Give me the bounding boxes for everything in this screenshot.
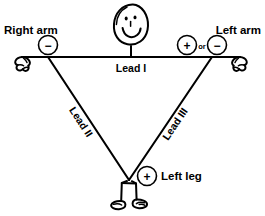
electrode-left-arm-negative[interactable]: − <box>208 36 227 55</box>
lead-lines-group <box>22 57 240 180</box>
diagram-canvas: − + or − + Right arm Left arm Lead I Lea… <box>0 0 265 216</box>
einthoven-triangle-diagram: − + or − + Right arm Left arm Lead I Lea… <box>0 0 265 216</box>
left-arm-label: Left arm <box>216 24 261 36</box>
left-leg-polarity-symbol: + <box>143 170 150 184</box>
right-eye-icon <box>134 16 137 20</box>
right-arm-hand-icon <box>15 57 30 71</box>
right-arm-label: Right arm <box>4 24 58 36</box>
legs-icon <box>111 181 147 209</box>
lead-i-label: Lead I <box>116 62 146 74</box>
lead-ii-line <box>48 57 129 180</box>
left-arm-negative-symbol: − <box>213 39 220 53</box>
electrode-right-arm-negative[interactable]: − <box>39 36 58 55</box>
right-arm-polarity-symbol: − <box>44 39 51 53</box>
head-icon <box>114 4 148 57</box>
electrode-left-arm-positive[interactable]: + <box>178 36 197 55</box>
left-eye-icon <box>125 17 128 21</box>
left-arm-hand-icon <box>232 57 247 71</box>
left-shoe-icon <box>111 201 125 209</box>
left-arm-positive-symbol: + <box>183 39 190 53</box>
electrode-left-leg-positive[interactable]: + <box>138 167 157 186</box>
left-leg-label: Left leg <box>161 170 202 182</box>
smile-icon <box>123 28 141 37</box>
or-label: or <box>198 42 206 51</box>
